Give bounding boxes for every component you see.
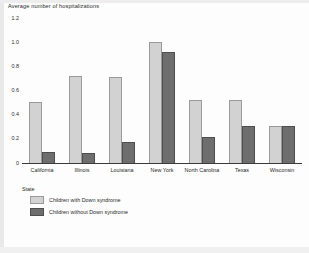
y-tick-label: 1.2 [12, 15, 20, 21]
x-tick-label: North Carolina [182, 167, 222, 173]
bar[interactable] [69, 76, 82, 163]
bar[interactable] [122, 142, 135, 162]
bar[interactable] [29, 102, 42, 162]
bar[interactable] [242, 126, 255, 162]
x-tick-label: Texas [222, 167, 262, 173]
legend-label: Children without Down syndrome [49, 209, 128, 215]
x-axis [22, 163, 302, 165]
y-tick-label: 0.6 [12, 87, 20, 93]
x-tick-label: California [22, 167, 62, 173]
legend: Children with Down syndromeChildren with… [30, 196, 128, 216]
x-tick-labels: CaliforniaIllinoisLouisianaNew YorkNorth… [22, 167, 302, 173]
bar[interactable] [202, 137, 215, 162]
legend-item[interactable]: Children without Down syndrome [30, 208, 128, 216]
bar[interactable] [109, 77, 122, 162]
x-axis-title: State [22, 186, 35, 192]
x-tick-label: New York [142, 167, 182, 173]
y-tick-label: 0.2 [12, 135, 20, 141]
bar-group [262, 19, 302, 163]
y-tick-label: 0 [16, 160, 19, 166]
bar[interactable] [269, 126, 282, 162]
bar-group [102, 19, 142, 163]
bar[interactable] [229, 100, 242, 163]
figure-caption [8, 244, 303, 252]
legend-swatch [30, 208, 44, 216]
bar[interactable] [189, 100, 202, 163]
x-tick-label: Illinois [62, 167, 102, 173]
x-tick-label: Wisconsin [262, 167, 302, 173]
legend-label: Children with Down syndrome [49, 197, 121, 203]
chart-title: Average number of hospitalizations [8, 3, 99, 9]
bar-groups [22, 19, 302, 163]
bar-group [62, 19, 102, 163]
bar[interactable] [149, 42, 162, 162]
bar-group [142, 19, 182, 163]
bar[interactable] [282, 126, 295, 162]
bar-group [222, 19, 262, 163]
y-tick-label: 0.4 [12, 111, 20, 117]
bar-group [22, 19, 62, 163]
plot-area: 00.20.40.60.81.01.2 [22, 18, 302, 164]
page-edge-left [0, 0, 4, 253]
legend-item[interactable]: Children with Down syndrome [30, 196, 128, 204]
bar[interactable] [42, 152, 55, 163]
bar[interactable] [162, 52, 175, 163]
bar[interactable] [82, 153, 95, 163]
x-tick-label: Louisiana [102, 167, 142, 173]
y-tick-label: 1.0 [12, 39, 20, 45]
bar-group [182, 19, 222, 163]
legend-swatch [30, 196, 44, 204]
y-tick-label: 0.8 [12, 63, 20, 69]
